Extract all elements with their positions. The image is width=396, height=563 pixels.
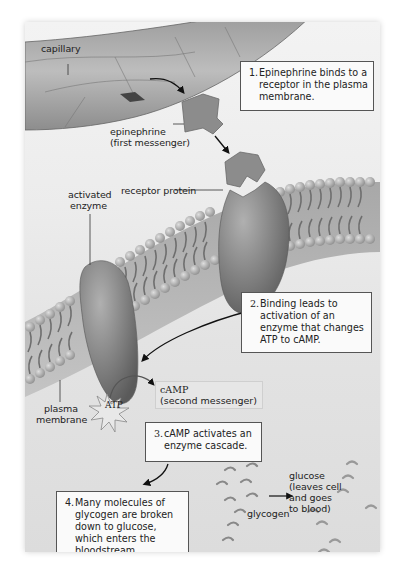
glucose-label-line2: (leaves cell (289, 481, 342, 492)
glycogen-label: glycogen (247, 508, 289, 519)
glucose-label-line4: to blood) (289, 503, 331, 514)
step-4-box: 4. Many molecules of glycogen are broken… (56, 491, 189, 552)
atp-label: ATP (105, 400, 123, 411)
step-2-number: 2. (250, 298, 259, 310)
capillary-label: capillary (41, 43, 80, 54)
activated-enzyme-label-line2: enzyme (70, 200, 107, 211)
step-4-number: 4. (65, 497, 74, 509)
step-3-text: cAMP activates an enzyme cascade. (154, 428, 255, 452)
figure-panel: capillary epinephrine (first messenger) … (25, 22, 380, 552)
epinephrine-molecule (182, 94, 223, 134)
receptor-protein-label: receptor protein (121, 185, 196, 196)
plasma-membrane-label-line1: plasma (44, 403, 78, 414)
camp-label-box: cAMP (second messenger) (155, 381, 263, 409)
epinephrine-label: epinephrine (110, 126, 166, 137)
glycogen-chain (217, 464, 257, 541)
step-3-box: 3. cAMP activates an enzyme cascade. (145, 422, 262, 462)
camp-sublabel: (second messenger) (160, 395, 258, 406)
step-2-text: Binding leads to activation of an enzyme… (250, 298, 365, 346)
activated-enzyme-label-line1: activated (68, 189, 112, 200)
bound-epinephrine (225, 152, 265, 187)
step-4-text: Many molecules of glycogen are broken do… (65, 497, 182, 552)
step-1-text: Epinephrine binds to a receptor in the p… (249, 67, 367, 103)
camp-label: cAMP (160, 384, 258, 395)
step-3-number: 3. (154, 428, 163, 440)
step-1-number: 1. (249, 67, 258, 79)
step-1-box: 1. Epinephrine binds to a receptor in th… (240, 61, 374, 111)
step-2-box: 2. Binding leads to activation of an enz… (241, 292, 372, 353)
glucose-label-line3: and goes (289, 492, 332, 503)
epinephrine-sublabel: (first messenger) (110, 137, 190, 148)
plasma-membrane-label-line2: membrane (36, 414, 87, 425)
glucose-label-line1: glucose (289, 470, 325, 481)
